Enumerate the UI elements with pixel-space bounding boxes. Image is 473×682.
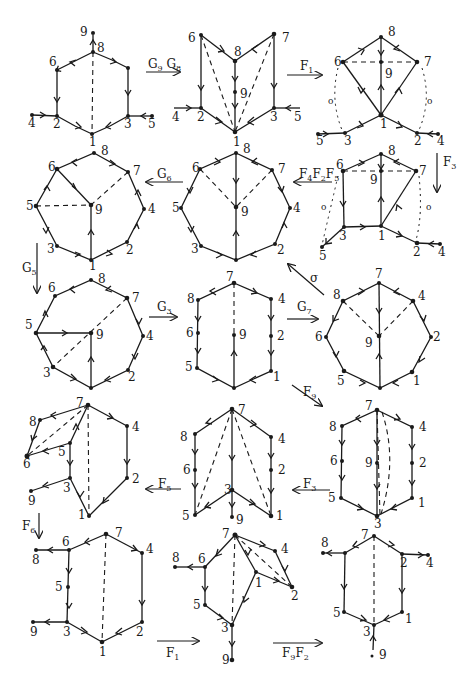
- svg-text:6: 6: [198, 552, 206, 566]
- svg-text:F3: F3: [443, 155, 456, 171]
- svg-text:9: 9: [385, 67, 393, 81]
- graph-1: 9 8 6 4 2 1 3 5: [28, 25, 156, 149]
- svg-text:1: 1: [78, 508, 86, 522]
- svg-text:1: 1: [378, 229, 386, 243]
- svg-text:1: 1: [276, 509, 284, 523]
- svg-text:7: 7: [238, 403, 246, 417]
- svg-text:2: 2: [291, 589, 299, 603]
- svg-text:3: 3: [363, 625, 371, 639]
- svg-text:5: 5: [25, 318, 33, 332]
- svg-text:9: 9: [240, 87, 248, 101]
- svg-text:2: 2: [400, 556, 408, 570]
- svg-text:1: 1: [380, 117, 388, 131]
- svg-text:4: 4: [426, 556, 434, 570]
- operator-F3-left: F3: [293, 477, 330, 493]
- vertex-label: 9: [80, 25, 88, 39]
- svg-text:6: 6: [23, 457, 31, 471]
- svg-text:8: 8: [388, 144, 396, 158]
- svg-text:6: 6: [330, 454, 338, 468]
- svg-text:6: 6: [192, 161, 200, 175]
- svg-text:8: 8: [32, 553, 40, 567]
- svg-text:7: 7: [226, 270, 234, 284]
- graph-12: 78 46 92 513: [328, 399, 427, 531]
- operator-G6: G6: [146, 167, 183, 183]
- svg-text:9: 9: [95, 203, 103, 217]
- svg-text:9: 9: [96, 328, 104, 342]
- svg-text:o: o: [427, 96, 432, 106]
- svg-text:7: 7: [419, 164, 427, 178]
- svg-text:5: 5: [182, 509, 190, 523]
- svg-text:1: 1: [255, 576, 263, 590]
- svg-text:1: 1: [413, 374, 421, 388]
- graph-7: 86 75 94 32: [25, 272, 154, 390]
- svg-text:3: 3: [270, 110, 278, 124]
- svg-text:9: 9: [236, 513, 244, 527]
- svg-text:7: 7: [132, 291, 140, 305]
- svg-text:2: 2: [419, 456, 427, 470]
- svg-text:1: 1: [418, 496, 426, 510]
- operator-sigma: σ: [288, 264, 324, 295]
- svg-text:4: 4: [132, 420, 140, 434]
- svg-text:9: 9: [239, 328, 247, 342]
- svg-text:o: o: [328, 96, 333, 106]
- operator-G9G8: G9 G8: [146, 57, 181, 73]
- svg-text:8: 8: [329, 420, 337, 434]
- svg-text:6: 6: [188, 31, 196, 45]
- operator-F9F2: F9F2: [273, 643, 322, 662]
- svg-text:7: 7: [361, 528, 369, 542]
- svg-text:8: 8: [333, 288, 341, 302]
- svg-text:4: 4: [281, 542, 289, 556]
- svg-text:G6: G6: [157, 167, 172, 183]
- svg-text:6: 6: [336, 158, 344, 172]
- svg-text:4: 4: [293, 201, 301, 215]
- graph-transformation-diagram: 9 8 6 4 2 1 3 5 G9 G8: [0, 0, 473, 682]
- svg-text:3: 3: [224, 483, 232, 497]
- vertex-label: 8: [97, 41, 105, 55]
- svg-text:9: 9: [379, 648, 387, 662]
- svg-text:F1: F1: [300, 59, 313, 75]
- operator-F4F2F5: F4F2F5: [294, 167, 339, 183]
- svg-text:o: o: [321, 202, 326, 212]
- vertex-label: 1: [89, 135, 97, 149]
- svg-text:6: 6: [62, 535, 70, 549]
- operator-F5: F5: [146, 477, 181, 493]
- operator-G7: G7: [287, 300, 318, 319]
- svg-text:σ: σ: [310, 271, 318, 285]
- svg-text:F5: F5: [158, 477, 171, 493]
- svg-text:4: 4: [172, 110, 180, 124]
- svg-text:5: 5: [316, 134, 324, 148]
- svg-text:3: 3: [43, 366, 51, 380]
- svg-text:6: 6: [183, 463, 191, 477]
- svg-text:7: 7: [365, 399, 373, 413]
- svg-text:3: 3: [339, 229, 347, 243]
- svg-text:4: 4: [438, 245, 446, 259]
- svg-text:9: 9: [370, 173, 378, 187]
- operator-F1-top: F1: [287, 59, 322, 75]
- svg-text:8: 8: [29, 415, 37, 429]
- svg-text:4: 4: [278, 432, 286, 446]
- graph-3: 86 79 oo 1 53 24: [316, 25, 445, 148]
- vertex-label: 3: [124, 117, 132, 131]
- svg-text:5: 5: [26, 199, 34, 213]
- svg-text:2: 2: [277, 243, 285, 257]
- graph-6: 86 79 oo 31 524: [319, 144, 446, 263]
- svg-text:9: 9: [222, 653, 230, 667]
- svg-text:o: o: [426, 202, 431, 212]
- svg-text:7: 7: [424, 55, 432, 69]
- svg-text:8: 8: [388, 25, 396, 39]
- svg-text:6: 6: [48, 281, 56, 295]
- svg-text:6: 6: [48, 160, 56, 174]
- svg-text:4: 4: [146, 542, 154, 556]
- svg-text:9: 9: [365, 456, 373, 470]
- svg-text:7: 7: [76, 396, 84, 410]
- svg-text:F9F2: F9F2: [282, 646, 309, 662]
- graph-2: 67 89 42 135: [172, 31, 302, 149]
- svg-text:6: 6: [315, 330, 323, 344]
- svg-text:2: 2: [413, 245, 421, 259]
- svg-text:F6: F6: [22, 519, 35, 535]
- svg-text:F1: F1: [166, 646, 179, 662]
- svg-text:8: 8: [234, 45, 242, 59]
- graph-13: 76 48 59 321: [30, 526, 154, 659]
- svg-text:2: 2: [433, 330, 441, 344]
- svg-text:8: 8: [243, 142, 251, 156]
